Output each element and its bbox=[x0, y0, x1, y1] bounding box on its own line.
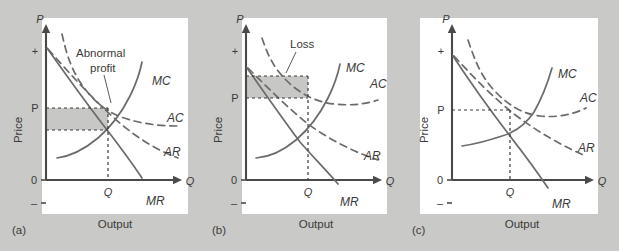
tick-minus-label-b: – bbox=[231, 197, 238, 209]
tick-zero-label-c: 0 bbox=[437, 174, 443, 186]
label-mc-b: MC bbox=[346, 61, 365, 75]
y-axis-title-a: Price bbox=[12, 117, 24, 143]
panel-a: P + P 0 – Price Q Q Output MC AC AR MR A… bbox=[0, 0, 206, 251]
panel-b-chart: P + P 0 – Price Q Q Output MC AC AR MR L… bbox=[206, 0, 406, 251]
annotation-line1-a: Abnormal bbox=[76, 47, 125, 59]
label-mc-c: MC bbox=[558, 67, 577, 81]
plot-area-c bbox=[420, 18, 598, 214]
tick-minus-label-c: – bbox=[437, 197, 444, 209]
tick-zero-label-a: 0 bbox=[31, 174, 37, 186]
y-axis-letter-b: P bbox=[236, 13, 244, 25]
price-tick-c: P bbox=[437, 104, 444, 116]
label-ar-b: AR bbox=[363, 149, 381, 163]
label-ar-a: AR bbox=[163, 145, 181, 159]
tick-plus-c: + bbox=[438, 45, 444, 57]
price-tick-a: P bbox=[31, 102, 38, 114]
x-axis-title-c: Output bbox=[505, 218, 540, 230]
panel-label-b: (b) bbox=[212, 224, 226, 236]
plot-area-b bbox=[242, 18, 387, 214]
quantity-tick-a: Q bbox=[104, 186, 113, 198]
tick-plus-b: + bbox=[232, 45, 238, 57]
y-axis-title-c: Price bbox=[418, 117, 430, 143]
panel-a-chart: P + P 0 – Price Q Q Output MC AC AR MR A… bbox=[0, 0, 206, 251]
y-axis-letter-a: P bbox=[36, 13, 44, 25]
quantity-tick-b: Q bbox=[304, 186, 313, 198]
tick-zero-label-b: 0 bbox=[231, 174, 237, 186]
panel-b: P + P 0 – Price Q Q Output MC AC AR MR L… bbox=[206, 0, 406, 251]
x-axis-title-b: Output bbox=[299, 218, 334, 230]
x-axis-letter-a: Q bbox=[186, 175, 195, 187]
x-axis-letter-c: Q bbox=[598, 175, 607, 187]
economics-figure: P + P 0 – Price Q Q Output MC AC AR MR A… bbox=[0, 0, 619, 251]
tick-minus-label-a: – bbox=[31, 197, 38, 209]
label-mc-a: MC bbox=[152, 74, 171, 88]
annotation-line1-b: Loss bbox=[290, 38, 315, 50]
y-axis-letter-c: P bbox=[442, 13, 450, 25]
quantity-tick-c: Q bbox=[506, 186, 515, 198]
annotation-line2-a: profit bbox=[90, 62, 116, 74]
label-mr-c: MR bbox=[552, 197, 571, 211]
x-axis-letter-b: Q bbox=[386, 175, 395, 187]
panel-label-c: (c) bbox=[412, 224, 426, 236]
panel-label-a: (a) bbox=[12, 224, 26, 236]
label-mr-a: MR bbox=[146, 194, 165, 208]
label-ac-b: AC bbox=[369, 77, 387, 91]
panel-c-chart: P + P 0 – Price Q Q Output MC AC AR MR (… bbox=[406, 0, 619, 251]
label-ac-c: AC bbox=[579, 91, 597, 105]
label-ac-a: AC bbox=[166, 111, 184, 125]
panel-c: P + P 0 – Price Q Q Output MC AC AR MR (… bbox=[406, 0, 619, 251]
label-mr-b: MR bbox=[340, 195, 359, 209]
y-axis-title-b: Price bbox=[212, 117, 224, 143]
tick-plus-a: + bbox=[32, 45, 38, 57]
x-axis-title-a: Output bbox=[98, 218, 133, 230]
label-ar-c: AR bbox=[577, 141, 595, 155]
price-tick-b: P bbox=[231, 92, 238, 104]
